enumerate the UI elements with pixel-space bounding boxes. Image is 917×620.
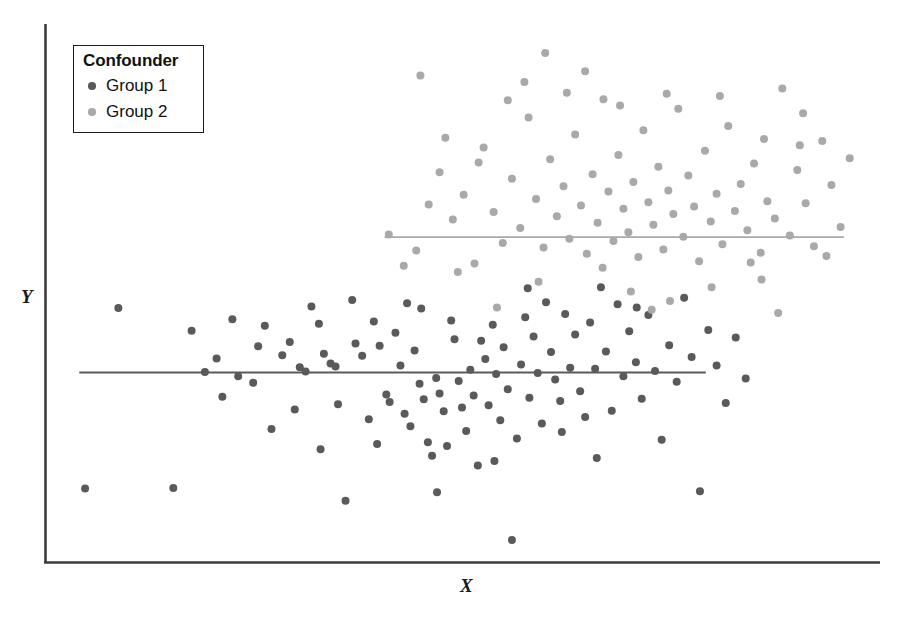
data-point	[458, 403, 466, 411]
data-point	[492, 370, 500, 378]
data-point	[420, 395, 428, 403]
data-point	[619, 205, 627, 213]
data-point	[334, 400, 342, 408]
legend-marker-group-1	[83, 82, 101, 90]
data-point	[291, 406, 299, 414]
data-point	[406, 422, 414, 430]
data-point	[358, 352, 366, 360]
data-point	[432, 374, 440, 382]
data-point	[786, 232, 794, 240]
data-point	[576, 387, 584, 395]
data-point	[837, 223, 845, 231]
data-point	[581, 67, 589, 75]
data-point	[317, 445, 325, 453]
data-point	[481, 355, 489, 363]
data-point	[651, 367, 659, 375]
data-point	[470, 260, 478, 268]
data-point	[696, 487, 704, 495]
data-point	[348, 296, 356, 304]
legend-dot	[88, 82, 96, 90]
data-point	[525, 394, 533, 402]
data-point	[639, 126, 647, 134]
data-point	[474, 461, 482, 469]
data-point	[525, 113, 533, 121]
data-point	[500, 343, 508, 351]
data-point	[708, 283, 716, 291]
data-point	[827, 181, 835, 189]
data-point	[218, 393, 226, 401]
data-point	[763, 197, 771, 205]
data-point	[586, 319, 594, 327]
data-point	[846, 154, 854, 162]
data-point	[810, 242, 818, 250]
data-point	[665, 341, 673, 349]
data-point	[540, 243, 548, 251]
legend-marker-group-2	[83, 108, 101, 116]
data-point	[674, 105, 682, 113]
data-point	[530, 333, 538, 341]
data-point	[565, 235, 573, 243]
data-point	[757, 249, 765, 257]
data-point	[516, 224, 524, 232]
data-point	[750, 160, 758, 168]
data-point	[114, 304, 122, 312]
data-point	[504, 96, 512, 104]
data-point	[713, 190, 721, 198]
data-point	[563, 89, 571, 97]
data-point	[553, 212, 561, 220]
data-point	[747, 258, 755, 266]
data-point	[513, 435, 521, 443]
data-point	[644, 198, 652, 206]
data-point	[436, 168, 444, 176]
regression-lines-layer	[79, 237, 844, 372]
data-point	[307, 302, 315, 310]
data-point	[391, 329, 399, 337]
data-point	[436, 389, 444, 397]
data-point	[577, 202, 585, 210]
data-point	[451, 335, 459, 343]
data-point	[460, 191, 468, 199]
data-point	[81, 485, 89, 493]
data-point	[627, 287, 635, 295]
data-point	[604, 188, 612, 196]
data-point	[547, 348, 555, 356]
data-point	[793, 166, 801, 174]
data-point	[713, 362, 721, 370]
data-point	[695, 257, 703, 265]
data-point	[449, 215, 457, 223]
data-point	[690, 203, 698, 211]
data-point	[722, 399, 730, 407]
data-point	[490, 208, 498, 216]
data-point	[546, 155, 554, 163]
data-point	[629, 178, 637, 186]
data-point	[188, 327, 196, 335]
legend-item-group-1: Group 1	[83, 73, 194, 99]
data-point	[663, 90, 671, 98]
data-point	[666, 297, 674, 305]
data-point	[556, 397, 564, 405]
data-point	[619, 372, 627, 380]
data-point	[597, 283, 605, 291]
data-point	[508, 536, 516, 544]
data-point	[673, 378, 681, 386]
data-point	[286, 338, 294, 346]
data-point	[477, 337, 485, 345]
data-point	[771, 214, 779, 222]
data-point	[535, 278, 543, 286]
legend-dot	[88, 108, 96, 116]
data-point	[342, 497, 350, 505]
data-point	[558, 428, 566, 436]
y-axis-label: Y	[21, 287, 33, 306]
data-point	[638, 395, 646, 403]
data-point	[760, 135, 768, 143]
data-point	[267, 425, 275, 433]
data-point	[669, 210, 677, 218]
data-point	[566, 364, 574, 372]
data-point	[278, 351, 286, 359]
data-point	[802, 199, 810, 207]
data-point	[633, 304, 641, 312]
data-point	[778, 84, 786, 92]
data-point	[524, 284, 532, 292]
data-point	[228, 315, 236, 323]
data-point	[716, 92, 724, 100]
